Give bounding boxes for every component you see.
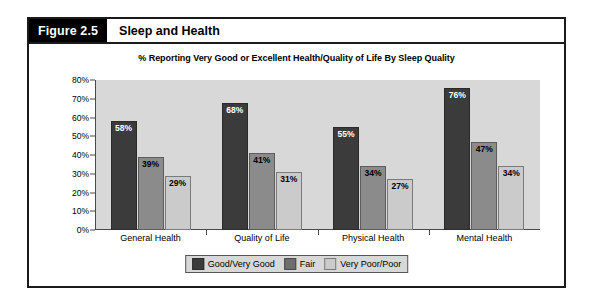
legend-label: Very Poor/Poor	[340, 259, 401, 269]
bar-group: 55%34%27%	[318, 80, 429, 230]
legend-swatch	[284, 258, 296, 270]
bar: 27%	[387, 179, 413, 230]
chart-legend: Good/Very GoodFairVery Poor/Poor	[185, 255, 409, 273]
bar-value-label: 47%	[472, 145, 496, 154]
bar-value-label: 41%	[250, 156, 274, 165]
bar-group: 68%41%31%	[206, 80, 317, 230]
bar-value-label: 55%	[334, 130, 358, 139]
legend-item: Good/Very Good	[192, 258, 275, 270]
figure-number-badge: Figure 2.5	[29, 19, 107, 42]
bars-layer: 58%39%29%68%41%31%55%34%27%76%47%34%	[95, 80, 540, 230]
bar-value-label: 58%	[112, 124, 136, 133]
chart-title: % Reporting Very Good or Excellent Healt…	[29, 53, 564, 63]
bar: 34%	[360, 166, 386, 230]
bar: 34%	[498, 166, 524, 230]
bar: 58%	[111, 121, 137, 230]
bar: 47%	[471, 142, 497, 230]
bar-value-label: 76%	[445, 91, 469, 100]
x-axis-category-label: Physical Health	[318, 233, 429, 243]
bar-value-label: 34%	[499, 169, 523, 178]
x-axis-labels: General HealthQuality of LifePhysical He…	[95, 233, 540, 243]
legend-label: Good/Very Good	[208, 259, 275, 269]
bar: 31%	[276, 172, 302, 230]
chart-body: % Reporting Very Good or Excellent Healt…	[29, 44, 564, 286]
bar: 68%	[222, 103, 248, 231]
bar-value-label: 34%	[361, 169, 385, 178]
bar: 55%	[333, 127, 359, 230]
bar-value-label: 31%	[277, 175, 301, 184]
legend-item: Fair	[284, 258, 316, 270]
bar-value-label: 68%	[223, 106, 247, 115]
legend-item: Very Poor/Poor	[324, 258, 401, 270]
figure-title: Sleep and Health	[107, 19, 220, 42]
plot-wrap: 0%10%20%30%40%50%60%70%80% 58%39%29%68%4…	[95, 80, 540, 230]
bar-group: 76%47%34%	[429, 80, 540, 230]
bar: 39%	[138, 157, 164, 230]
bar: 29%	[165, 176, 191, 230]
x-axis-category-label: Mental Health	[429, 233, 540, 243]
bar: 76%	[444, 88, 470, 231]
figure-header: Figure 2.5 Sleep and Health	[29, 19, 564, 44]
x-axis-category-label: Quality of Life	[206, 233, 317, 243]
legend-swatch	[324, 258, 336, 270]
bar-value-label: 29%	[166, 179, 190, 188]
bar-value-label: 27%	[388, 182, 412, 191]
legend-label: Fair	[300, 259, 316, 269]
bar-value-label: 39%	[139, 160, 163, 169]
x-axis-category-label: General Health	[95, 233, 206, 243]
figure-frame: Figure 2.5 Sleep and Health % Reporting …	[27, 17, 566, 288]
legend-swatch	[192, 258, 204, 270]
bar: 41%	[249, 153, 275, 230]
bar-group: 58%39%29%	[95, 80, 206, 230]
